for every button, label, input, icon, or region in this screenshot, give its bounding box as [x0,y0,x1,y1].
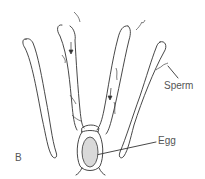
venter-base-left [76,168,82,175]
right-inner-neck [97,26,130,134]
sperm-label: Sperm [164,81,193,91]
sperm-leader-line [168,66,178,78]
egg-label: Egg [158,136,176,146]
sperm-2 [136,20,145,30]
panel-label: B [15,153,22,163]
left-inner-neck [58,25,84,130]
sperm-4 [62,55,65,63]
egg [82,137,98,167]
venter-neck-cap [82,125,99,132]
sperm-1 [74,12,80,22]
sperm-6 [116,68,117,80]
left-outer-lobe [23,39,57,158]
sperm-5 [70,95,76,104]
venter-base-right [99,168,105,175]
